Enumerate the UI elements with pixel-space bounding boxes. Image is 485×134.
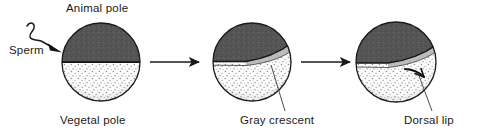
animal-hemisphere-1 — [60, 20, 144, 63]
label-animal-pole: Animal pole — [66, 2, 128, 14]
label-gray-crescent: Gray crescent — [240, 114, 314, 126]
gray-crescent-diagram: Animal pole Vegetal pole Sperm Gray cres… — [0, 0, 485, 134]
label-dorsal-lip: Dorsal lip — [404, 114, 454, 126]
egg-stage-2 — [211, 20, 295, 106]
egg-stage-3 — [354, 20, 440, 106]
label-vegetal-pole: Vegetal pole — [60, 114, 126, 126]
sperm-head — [48, 44, 62, 53]
label-sperm: Sperm — [9, 44, 44, 56]
equator-line-1 — [60, 61, 144, 63]
egg-stage-1 — [60, 20, 144, 106]
